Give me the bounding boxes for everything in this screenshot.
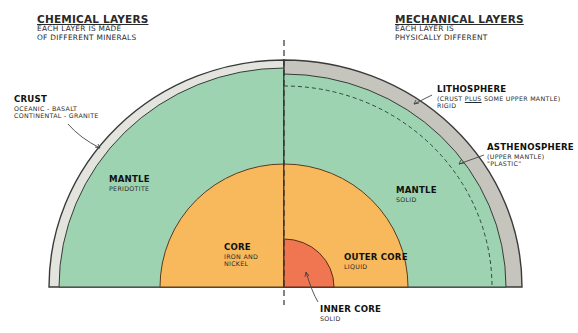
mantle-mechanical-label: MANTLE SOLID — [396, 186, 437, 203]
lithosphere-label: LITHOSPHERE (CRUST PLUS SOME UPPER MANTL… — [437, 85, 560, 109]
mechanical-layers-desc-2: PHYSICALLY DIFFERENT — [395, 34, 524, 43]
core-chemical-name: CORE — [224, 243, 258, 253]
core-chemical-desc-2: NICKEL — [224, 260, 258, 267]
asthenosphere-name: ASTHENOSPHERE — [487, 143, 574, 153]
lithosphere-desc-2: RIGID — [437, 102, 560, 109]
chemical-layers-header: CHEMICAL LAYERS EACH LAYER IS MADE OF DI… — [37, 13, 148, 42]
core-chemical-label: CORE IRON AND NICKEL — [224, 243, 258, 267]
crust-desc-2: CONTINENTAL - GRANITE — [14, 112, 99, 119]
mechanical-layers-header: MECHANICAL LAYERS EACH LAYER IS PHYSICAL… — [395, 13, 524, 42]
crust-name: CRUST — [14, 95, 99, 105]
inner-core-desc: SOLID — [320, 315, 381, 322]
asthenosphere-desc-1: (UPPER MANTLE) — [487, 153, 574, 160]
mantle-chemical-desc: PERIDOTITE — [109, 185, 150, 192]
crust-label: CRUST OCEANIC - BASALT CONTINENTAL - GRA… — [14, 95, 99, 119]
crust-arrow-icon — [68, 124, 100, 148]
mantle-mechanical-desc: SOLID — [396, 196, 437, 203]
outer-core-name: OUTER CORE — [344, 253, 408, 263]
mantle-chemical-label: MANTLE PERIDOTITE — [109, 175, 150, 192]
outer-core-desc: LIQUID — [344, 263, 408, 270]
crust-desc-1: OCEANIC - BASALT — [14, 105, 99, 112]
mantle-chemical-name: MANTLE — [109, 175, 150, 185]
asthenosphere-desc-2: "PLASTIC" — [487, 160, 574, 167]
chemical-layers-desc-2: OF DIFFERENT MINERALS — [37, 34, 148, 43]
asthenosphere-label: ASTHENOSPHERE (UPPER MANTLE) "PLASTIC" — [487, 143, 574, 167]
mantle-mechanical-name: MANTLE — [396, 186, 437, 196]
core-chemical-desc-1: IRON AND — [224, 253, 258, 260]
outer-core-label: OUTER CORE LIQUID — [344, 253, 408, 270]
inner-core-label: INNER CORE SOLID — [320, 305, 381, 322]
lithosphere-name: LITHOSPHERE — [437, 85, 560, 95]
inner-core-name: INNER CORE — [320, 305, 381, 315]
lithosphere-desc-1: (CRUST PLUS SOME UPPER MANTLE) — [437, 95, 560, 102]
